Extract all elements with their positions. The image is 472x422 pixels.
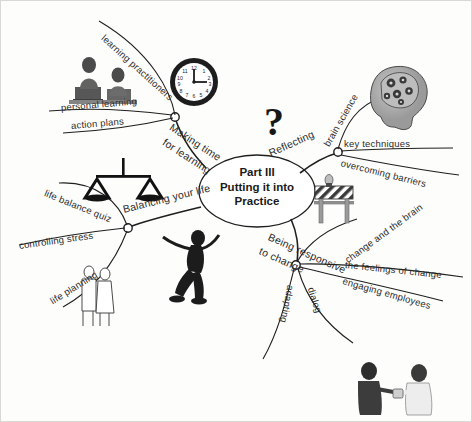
svg-text:12: 12	[191, 65, 197, 71]
node-balancing	[124, 224, 132, 232]
mind-map-branches: 121 23 45 67 89 1011	[1, 1, 472, 422]
node-reflecting	[334, 148, 342, 156]
svg-text:1: 1	[203, 68, 206, 74]
head-with-gears-illustration	[370, 66, 427, 129]
svg-text:11: 11	[182, 68, 187, 74]
svg-text:3: 3	[209, 81, 212, 87]
svg-text:6: 6	[193, 93, 196, 99]
two-people-talking-illustration	[358, 362, 432, 415]
svg-text:4: 4	[206, 88, 209, 94]
wall-clock-illustration: 121 23 45 67 89 1011	[170, 58, 218, 106]
svg-text:10: 10	[177, 75, 183, 81]
svg-text:9: 9	[178, 81, 181, 87]
road-barrier-illustration	[314, 175, 354, 224]
sub-label-key-techniques[interactable]: key techniques	[344, 138, 410, 149]
running-figure-illustration	[163, 230, 219, 304]
center-node-label: Part III Putting it into Practice	[201, 165, 313, 209]
svg-text:8: 8	[180, 88, 183, 94]
svg-text:5: 5	[200, 92, 203, 98]
mind-map-canvas: 121 23 45 67 89 1011	[0, 0, 472, 422]
svg-text:7: 7	[186, 92, 189, 98]
question-mark-icon: ?	[264, 102, 284, 142]
